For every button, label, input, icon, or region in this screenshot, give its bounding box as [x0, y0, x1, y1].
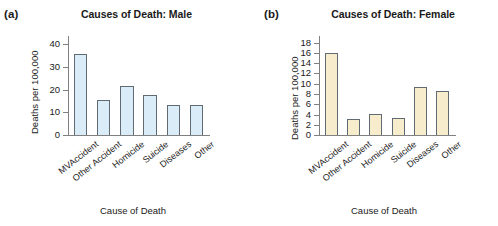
panel-b-y-tick-label: 14 — [300, 58, 311, 68]
bar-suicide — [143, 95, 156, 135]
bar-homicide — [369, 114, 382, 135]
panel-b-y-tick: 4 — [314, 115, 319, 116]
panel-b-y-tick-label: 8 — [306, 89, 311, 99]
bar-other-accident — [347, 119, 360, 135]
panel-a-y-tick-label: 40 — [49, 39, 60, 49]
panel-a-category-labels: MVAccidentOther AccidentHomicideSuicideD… — [68, 136, 208, 188]
panel-a-bar-slot — [69, 36, 92, 135]
panel-b-x-axis-label: Cause of Death — [309, 205, 459, 216]
panel-b-bars — [320, 36, 454, 135]
panel-b-plot-area: 024681012141618 MVAccidentOther Accident… — [319, 36, 454, 136]
panel-b-y-tick-label: 4 — [306, 110, 311, 120]
panel-b-label: (b) — [264, 8, 279, 20]
panel-b-y-tick-label: 18 — [300, 38, 311, 48]
panel-a-bar-slot — [162, 36, 185, 135]
panel-b-y-tick: 16 — [314, 53, 319, 54]
panel-b-y-tick-label: 2 — [306, 120, 311, 130]
panel-b-y-tick-label: 12 — [300, 69, 311, 79]
panel-b-y-tick: 10 — [314, 84, 319, 85]
bar-mvaccident — [325, 53, 338, 135]
panel-b-y-tick-label: 6 — [306, 99, 311, 109]
panel-b-bar-slot — [320, 36, 342, 135]
panel-a: (a) Causes of Death: Male Deaths per 100… — [0, 0, 249, 226]
panel-a-bars — [69, 36, 208, 135]
panel-b-y-tick-label: 16 — [300, 48, 311, 58]
panel-b-y-tick: 2 — [314, 125, 319, 126]
panel-b-y-tick: 14 — [314, 63, 319, 64]
panel-a-plot-area: 010203040 MVAccidentOther AccidentHomici… — [68, 36, 208, 136]
panel-b-y-tick: 18 — [314, 43, 319, 44]
bar-diseases — [414, 87, 427, 135]
bar-other — [190, 105, 203, 135]
category-label-other: Other — [439, 139, 463, 161]
panel-a-y-tick: 10 — [63, 112, 68, 113]
panel-a-y-tick-label: 0 — [55, 130, 60, 140]
panel-b-y-tick: 6 — [314, 104, 319, 105]
panel-b-bar-slot — [387, 36, 409, 135]
panel-a-y-tick: 20 — [63, 90, 68, 91]
panel-b-bar-slot — [365, 36, 387, 135]
panel-b-bar-slot — [432, 36, 454, 135]
panel-a-y-tick-label: 20 — [49, 85, 60, 95]
panel-a-bar-slot — [139, 36, 162, 135]
panel-b-y-tick: 12 — [314, 73, 319, 74]
panel-b-bar-slot — [342, 36, 364, 135]
panel-a-x-axis-label: Cause of Death — [58, 205, 208, 216]
panel-a-title: Causes of Death: Male — [34, 8, 239, 20]
figure-container: (a) Causes of Death: Male Deaths per 100… — [0, 0, 498, 226]
panel-a-y-tick: 40 — [63, 44, 68, 45]
panel-a-label: (a) — [4, 8, 18, 20]
panel-a-bar-slot — [185, 36, 208, 135]
bar-mvaccident — [74, 54, 87, 135]
panel-b: (b) Causes of Death: Female Deaths per 1… — [249, 0, 498, 226]
bar-other — [436, 91, 449, 135]
panel-a-bar-slot — [92, 36, 115, 135]
panel-b-title: Causes of Death: Female — [293, 8, 493, 20]
category-label-other: Other — [193, 139, 217, 161]
bar-other-accident — [97, 100, 110, 135]
panel-b-y-axis-label: Deaths per 100,000 — [289, 57, 300, 140]
panel-a-bar-slot — [115, 36, 138, 135]
panel-a-y-tick-label: 30 — [49, 62, 60, 72]
bar-diseases — [167, 105, 180, 135]
panel-a-y-tick-label: 10 — [49, 108, 60, 118]
panel-b-y-tick: 8 — [314, 94, 319, 95]
panel-b-y-tick-label: 0 — [306, 130, 311, 140]
panel-a-y-axis-label: Deaths per 100,000 — [29, 51, 40, 134]
bar-suicide — [392, 118, 405, 135]
panel-b-category-labels: MVAccidentOther AccidentHomicideSuicideD… — [319, 136, 454, 188]
panel-b-y-tick-label: 10 — [300, 79, 311, 89]
panel-b-bar-slot — [409, 36, 431, 135]
panel-a-y-tick: 30 — [63, 67, 68, 68]
bar-homicide — [120, 86, 133, 135]
